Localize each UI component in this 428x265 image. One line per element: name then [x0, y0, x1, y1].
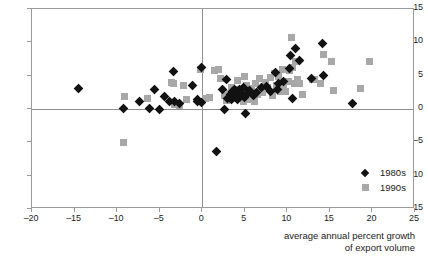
data-point-1980s: [236, 91, 246, 101]
x-tick-label: 15: [309, 214, 349, 223]
data-point-1990s: [245, 87, 252, 94]
data-point-1980s: [286, 51, 296, 61]
x-tick-label: 0: [181, 214, 221, 223]
data-point-1990s: [257, 86, 264, 93]
data-point-1990s: [248, 85, 255, 92]
data-point-1990s: [180, 82, 187, 89]
data-point-1990s: [250, 90, 257, 97]
data-point-1990s: [282, 88, 289, 95]
data-point-1990s: [252, 80, 259, 87]
data-point-1990s: [233, 95, 240, 102]
data-point-1990s: [228, 84, 235, 91]
data-point-1990s: [231, 88, 238, 95]
data-point-1980s: [270, 67, 280, 77]
data-point-1980s: [160, 91, 170, 101]
data-point-1980s: [232, 94, 242, 104]
x-tick-label: 20: [351, 214, 391, 223]
data-point-1990s: [215, 66, 222, 73]
data-point-1990s: [168, 79, 175, 86]
data-point-1990s: [237, 92, 244, 99]
data-point-1980s: [164, 97, 174, 107]
data-point-1990s: [170, 80, 177, 87]
data-point-1990s: [240, 98, 247, 105]
data-point-1990s: [320, 51, 327, 58]
data-point-1980s: [262, 81, 272, 91]
legend: 1980s 1990s: [358, 165, 406, 195]
data-point-1980s: [241, 109, 251, 119]
data-point-1980s: [188, 81, 198, 91]
data-point-1990s: [277, 88, 284, 95]
data-point-1980s: [74, 83, 84, 93]
x-tick-label: –5: [139, 214, 179, 223]
data-point-1990s: [256, 75, 263, 82]
data-point-1990s: [234, 77, 241, 84]
data-point-1990s: [251, 98, 258, 105]
data-point-1980s: [257, 83, 267, 93]
diamond-marker-icon: [358, 170, 372, 176]
data-point-1980s: [231, 90, 241, 100]
data-point-1990s: [243, 82, 250, 89]
data-point-1990s: [366, 58, 373, 65]
x-tick-label: 5: [224, 214, 264, 223]
data-point-1980s: [306, 73, 316, 83]
legend-label-1980s: 1980s: [380, 168, 406, 178]
data-point-1990s: [144, 95, 151, 102]
data-point-1990s: [223, 97, 230, 104]
data-point-1990s: [269, 92, 276, 99]
legend-item-1990s: 1990s: [358, 180, 406, 195]
data-point-1980s: [223, 93, 233, 103]
data-point-1980s: [294, 55, 304, 65]
x-tick: [329, 208, 330, 212]
data-point-1990s: [264, 84, 271, 91]
data-point-1990s: [288, 34, 295, 41]
data-point-1980s: [317, 39, 327, 49]
data-point-1980s: [150, 85, 160, 95]
data-point-1980s: [230, 84, 240, 94]
data-point-1980s: [279, 77, 289, 87]
data-point-1990s: [246, 96, 253, 103]
data-point-1990s: [121, 93, 128, 100]
data-point-1990s: [262, 79, 269, 86]
data-point-1980s: [265, 87, 275, 97]
data-point-1990s: [211, 67, 218, 74]
data-point-1990s: [120, 139, 127, 146]
data-point-1990s: [357, 85, 364, 92]
x-axis-title: average annual percent growth of export …: [284, 230, 415, 254]
data-point-1990s: [292, 58, 299, 65]
data-point-1980s: [235, 85, 245, 95]
x-tick: [371, 208, 372, 212]
data-point-1990s: [285, 78, 292, 85]
data-point-1980s: [318, 70, 328, 80]
data-point-1990s: [171, 101, 178, 108]
data-point-1990s: [221, 92, 228, 99]
data-point-1980s: [168, 67, 178, 77]
data-point-1990s: [299, 91, 306, 98]
data-point-1980s: [174, 98, 184, 108]
data-point-1990s: [229, 93, 236, 100]
data-point-1990s: [206, 94, 213, 101]
data-point-1980s: [287, 93, 297, 103]
data-point-1980s: [284, 63, 294, 73]
x-tick: [244, 208, 245, 212]
data-point-1990s: [311, 76, 318, 83]
data-point-1980s: [192, 94, 202, 104]
data-point-1980s: [218, 84, 228, 94]
x-tick: [159, 208, 160, 212]
x-axis-title-line2: of export volume: [284, 242, 415, 254]
data-point-1990s: [330, 87, 337, 94]
data-point-1980s: [228, 86, 238, 96]
data-point-1990s: [259, 89, 266, 96]
data-point-1980s: [291, 43, 301, 53]
data-point-1990s: [296, 80, 303, 87]
data-point-1990s: [275, 73, 282, 80]
data-point-1990s: [294, 76, 301, 83]
data-point-1990s: [317, 80, 324, 87]
data-point-1990s: [239, 89, 246, 96]
data-point-1990s: [286, 67, 293, 74]
zero-line-vertical: [202, 9, 203, 207]
square-marker-icon: [358, 184, 372, 191]
data-point-1990s: [289, 64, 296, 71]
x-tick: [201, 208, 202, 212]
zero-line-horizontal: [32, 109, 413, 110]
